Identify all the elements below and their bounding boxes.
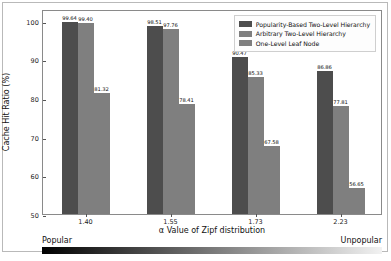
- legend-label: One-Level Leaf Node: [256, 40, 319, 47]
- y-tick-50: 50: [31, 212, 43, 220]
- bar-1.55-series3: 78.41: [179, 104, 195, 214]
- figure-canvas: Cache Hit Ratio (%) 1009080706050 99.649…: [0, 0, 391, 261]
- legend: Popularity-Based Two-Level HierarchyArbi…: [234, 15, 376, 52]
- bar-1.73-series1: 90.47: [232, 57, 248, 214]
- legend-swatch-icon: [239, 21, 252, 27]
- y-tick-60: 60: [31, 173, 43, 181]
- x-tick-mark: [86, 214, 87, 217]
- x-tick-mark: [171, 214, 172, 217]
- y-tick-90: 90: [31, 57, 43, 65]
- bar-value-label: 56.65: [349, 181, 363, 187]
- legend-item-1[interactable]: Popularity-Based Two-Level Hierarchy: [239, 20, 370, 29]
- popularity-label-right: Unpopular: [341, 236, 382, 245]
- legend-item-3[interactable]: One-Level Leaf Node: [239, 39, 370, 48]
- bar-1.55-series2: 97.76: [163, 29, 179, 214]
- bar-value-label: 99.64: [62, 15, 76, 21]
- y-tick-70: 70: [31, 135, 43, 143]
- bar-1.40-series3: 81.32: [94, 93, 110, 214]
- popularity-scale: Popular Unpopular: [42, 236, 382, 254]
- popularity-label-left: Popular: [42, 236, 72, 245]
- x-tick-2.23: 2.23: [333, 218, 347, 226]
- bar-value-label: 67.58: [264, 139, 278, 145]
- bar-value-label: 86.86: [317, 64, 331, 70]
- bar-1.55-series1: 98.51: [147, 26, 163, 214]
- y-tick-80: 80: [31, 96, 43, 104]
- bar-1.73-series2: 85.33: [248, 77, 264, 214]
- bar-1.40-series2: 99.40: [78, 23, 94, 214]
- bar-value-label: 77.81: [333, 99, 347, 105]
- y-axis-label: Cache Hit Ratio (%): [2, 73, 11, 151]
- popularity-scale-labels: Popular Unpopular: [42, 236, 382, 246]
- bar-2.23-series1: 86.86: [317, 71, 333, 214]
- bar-2.23-series3: 56.65: [349, 188, 365, 214]
- x-tick-1.55: 1.55: [163, 218, 177, 226]
- x-tick-1.40: 1.40: [78, 218, 92, 226]
- y-tick-100: 100: [26, 19, 43, 27]
- legend-item-2[interactable]: Arbitrary Two-Level Hierarchy: [239, 29, 370, 38]
- bar-1.73-series3: 67.58: [264, 146, 280, 214]
- bar-value-label: 81.32: [94, 86, 108, 92]
- bar-1.40-series1: 99.64: [62, 22, 78, 214]
- bar-value-label: 99.40: [78, 16, 92, 22]
- bar-value-label: 98.51: [147, 19, 161, 25]
- bar-value-label: 85.33: [248, 70, 262, 76]
- x-axis-label: α Value of Zipf distribution: [42, 226, 382, 235]
- x-tick-mark: [341, 214, 342, 217]
- legend-swatch-icon: [239, 31, 252, 37]
- bar-value-label: 78.41: [179, 97, 193, 103]
- bar-2.23-series2: 77.81: [333, 106, 349, 214]
- legend-rows: Popularity-Based Two-Level HierarchyArbi…: [239, 20, 370, 48]
- legend-label: Popularity-Based Two-Level Hierarchy: [256, 21, 370, 28]
- legend-label: Arbitrary Two-Level Hierarchy: [256, 30, 346, 37]
- bar-value-label: 97.76: [163, 22, 177, 28]
- bar-group-1.55: 98.5197.7678.411.55: [147, 11, 195, 214]
- popularity-gradient-bar: [42, 247, 382, 254]
- plot-area: 1009080706050 99.6499.4081.321.4098.5197…: [42, 10, 382, 215]
- bar-group-1.40: 99.6499.4081.321.40: [62, 11, 110, 214]
- x-tick-1.73: 1.73: [248, 218, 262, 226]
- x-tick-mark: [256, 214, 257, 217]
- legend-swatch-icon: [239, 40, 252, 46]
